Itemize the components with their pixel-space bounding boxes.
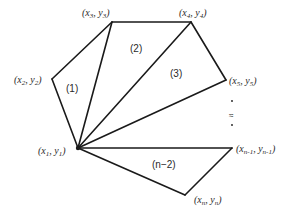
vertex-p1-marker [76, 146, 80, 150]
region-label-1: (1) [66, 83, 78, 94]
approx-symbol: ≈ [229, 111, 234, 120]
label-pn-minus-1: (xn-1, yn-1) [236, 143, 276, 156]
edge-p4-p5 [191, 22, 226, 80]
ellipsis-dot-top [231, 100, 233, 102]
ellipsis-dot-bottom [231, 124, 233, 126]
region-label-3: (3) [170, 68, 182, 79]
label-p2: (x2, y2) [14, 74, 42, 87]
label-p1: (x1, y1) [38, 145, 66, 158]
edge-pn-p1 [78, 148, 185, 195]
edge-pn1-pn [185, 148, 232, 195]
label-pn: (xn, yn) [194, 194, 222, 207]
label-p5: (x5, y5) [229, 75, 257, 88]
continuation-ellipsis: ≈ [229, 100, 234, 126]
region-label-2: (2) [130, 43, 142, 54]
label-p4: (x4, y4) [179, 7, 207, 20]
label-p3: (x3, y3) [82, 7, 110, 20]
polygon-triangulation-diagram: (x1, y1) (x2, y2) (x3, y3) (x4, y4) (x5,… [0, 0, 301, 219]
edge-p2-p3 [52, 22, 112, 79]
diagonal-p1-p5 [78, 80, 226, 148]
region-label-n-minus-2: (n−2) [152, 159, 176, 170]
triangulation-diagonals [78, 22, 232, 148]
